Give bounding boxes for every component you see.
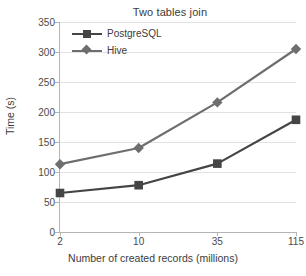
legend-item-postgresql[interactable]: PostgreSQL — [72, 27, 161, 39]
series-line-hive — [60, 49, 296, 164]
data-point-marker — [292, 116, 301, 125]
x-axis-title: Number of created records (millions) — [0, 252, 306, 264]
legend-item-hive[interactable]: Hive — [72, 44, 161, 56]
data-point-marker — [56, 189, 65, 198]
data-point-marker — [134, 181, 143, 190]
data-point-marker — [133, 143, 143, 153]
legend-marker-square-icon — [72, 28, 102, 39]
chart-container: Two tables join 050100150200250300350 21… — [0, 0, 306, 276]
legend-label-postgresql: PostgreSQL — [107, 28, 161, 39]
data-point-marker — [213, 159, 222, 168]
legend-label-hive: Hive — [107, 45, 127, 56]
data-point-marker — [55, 159, 65, 169]
chart-legend: PostgreSQL Hive — [72, 27, 161, 56]
legend-marker-diamond-icon — [72, 45, 102, 56]
y-axis-title: Time (s) — [4, 71, 16, 161]
